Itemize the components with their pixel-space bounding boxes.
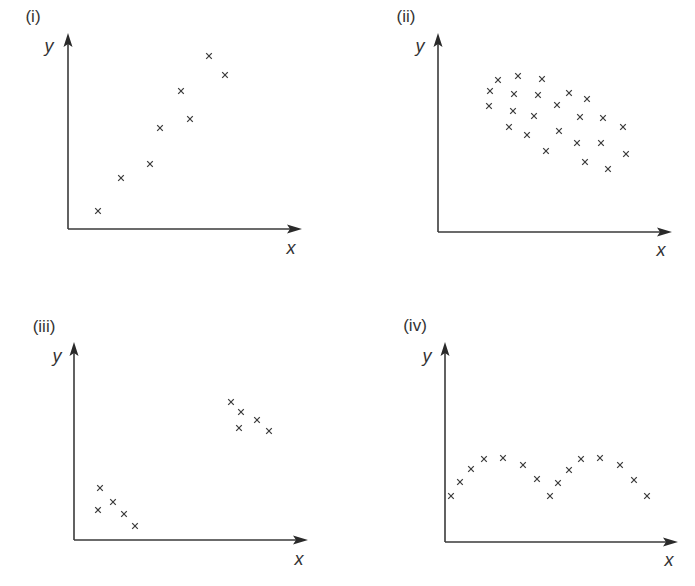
cross-marker-icon [468,466,474,472]
cross-marker-icon [600,115,606,121]
cross-marker-icon [228,399,234,405]
cross-marker-icon [157,125,163,131]
cross-marker-icon [543,148,549,154]
cross-marker-icon [510,108,516,114]
panel-title: (i) [25,7,40,26]
panel-iv: (iv) y x [403,316,678,570]
cross-marker-icon [132,523,138,529]
panel-ii: (ii) y x [397,7,672,260]
cross-marker-icon [222,72,228,78]
data-points [448,455,650,499]
cross-marker-icon [566,467,572,473]
cross-marker-icon [631,477,637,483]
cross-marker-icon [238,409,244,415]
cross-marker-icon [574,140,580,146]
cross-marker-icon [495,77,501,83]
cross-marker-icon [266,428,272,434]
cross-marker-icon [178,88,184,94]
cross-marker-icon [534,476,540,482]
y-axis-label: y [43,36,55,56]
cross-marker-icon [486,103,492,109]
cross-marker-icon [95,208,101,214]
panel-iii: (iii) y x [33,317,308,569]
cross-marker-icon [520,462,526,468]
data-points [486,73,629,172]
y-axis-label: y [414,36,426,56]
cross-marker-icon [121,511,127,517]
cross-marker-icon [578,456,584,462]
y-axis-label: y [51,346,63,366]
cross-marker-icon [254,417,260,423]
panel-title: (ii) [397,7,416,26]
axes [70,342,309,545]
cross-marker-icon [206,53,212,59]
cross-marker-icon [236,425,242,431]
x-axis-label: x [664,550,675,570]
panel-title: (iv) [403,316,427,335]
cross-marker-icon [97,485,103,491]
cross-marker-icon [457,479,463,485]
cross-marker-icon [515,73,521,79]
cross-marker-icon [644,493,650,499]
cross-marker-icon [524,132,530,138]
x-axis-label: x [656,240,667,260]
cross-marker-icon [95,507,101,513]
cross-marker-icon [448,493,454,499]
data-points [95,399,272,529]
cross-marker-icon [118,175,124,181]
axes [434,33,673,237]
y-axis-label: y [421,346,433,366]
cross-marker-icon [617,462,623,468]
cross-marker-icon [582,159,588,165]
x-axis-label: x [286,238,297,258]
data-points [95,53,228,214]
cross-marker-icon [506,124,512,130]
cross-marker-icon [547,493,553,499]
cross-marker-icon [605,166,611,172]
cross-marker-icon [577,114,583,120]
cross-marker-icon [584,96,590,102]
cross-marker-icon [620,124,626,130]
cross-marker-icon [500,455,506,461]
cross-marker-icon [511,91,517,97]
cross-marker-icon [147,161,153,167]
panel-i: (i) y x [25,7,302,258]
cross-marker-icon [598,140,604,146]
axes [441,342,679,547]
cross-marker-icon [481,456,487,462]
cross-marker-icon [487,88,493,94]
cross-marker-icon [554,102,560,108]
cross-marker-icon [531,113,537,119]
axes [64,33,303,234]
cross-marker-icon [623,151,629,157]
cross-marker-icon [187,116,193,122]
cross-marker-icon [539,76,545,82]
panel-title: (iii) [33,317,56,336]
cross-marker-icon [110,499,116,505]
cross-marker-icon [535,92,541,98]
cross-marker-icon [555,480,561,486]
cross-marker-icon [597,455,603,461]
x-axis-label: x [294,549,305,569]
scatter-figure: (i) y x (ii) y x (iii) y x (iv) y x [0,0,695,586]
cross-marker-icon [566,90,572,96]
cross-marker-icon [556,128,562,134]
